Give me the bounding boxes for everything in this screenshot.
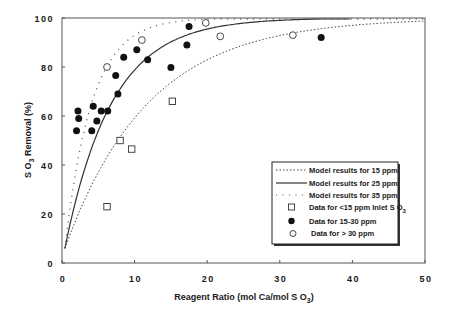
x-axis-title: Reagent Ratio (mol Ca/mol S O3) [174, 292, 313, 304]
data-point-lt15ppm [104, 203, 110, 209]
legend-label-lt15ppm: Data for <15 ppm Inlet S O3 [309, 203, 407, 214]
data-point-15-30ppm [186, 23, 193, 30]
data-point-lt15ppm [169, 98, 175, 104]
legend-label-gt30ppm: Data for > 30 ppm [311, 229, 374, 238]
y-tick-label: 80 [41, 63, 54, 73]
x-tick-label: 0 [60, 274, 67, 284]
y-tick-label: 40 [41, 161, 54, 171]
y-tick-label: 0 [47, 259, 54, 269]
legend-label-25ppm: Model results for 25 ppm [309, 179, 398, 188]
x-tick-label: 40 [347, 274, 360, 284]
x-tick-label: 10 [129, 274, 142, 284]
y-tick-label: 100 [34, 14, 54, 24]
x-tick-label: 20 [202, 274, 215, 284]
data-point-15-30ppm [114, 90, 121, 97]
data-point-15-30ppm [90, 103, 97, 110]
data-point-gt30ppm [202, 20, 209, 27]
legend: Model results for 15 ppm Model results f… [272, 162, 407, 246]
data-point-15-30ppm [88, 127, 95, 134]
data-point-gt30ppm [217, 33, 224, 40]
data-point-15-30ppm [73, 127, 80, 134]
data-point-15-30ppm [74, 108, 81, 115]
x-axis-ticks: 01020304050 [60, 260, 433, 284]
legend-label-15-30ppm: Data for 15-30 ppm [309, 217, 377, 226]
data-point-lt15ppm [117, 137, 123, 143]
chart: 01020304050 020406080100 Reagent Ratio (… [0, 0, 451, 318]
data-point-15-30ppm [318, 34, 325, 41]
y-tick-label: 60 [41, 112, 54, 122]
data-point-gt30ppm [289, 32, 296, 39]
y-axis-title: S O3 Removal (%) [23, 102, 35, 178]
y-tick-label: 20 [41, 210, 54, 220]
data-point-15-30ppm [167, 64, 174, 71]
data-point-15-30ppm [183, 41, 190, 48]
data-point-15-30ppm [133, 46, 140, 53]
x-tick-label: 30 [274, 274, 287, 284]
data-point-15-30ppm [144, 56, 151, 63]
legend-label-35ppm: Model results for 35 ppm [309, 191, 398, 200]
legend-label-15ppm: Model results for 15 ppm [309, 166, 398, 175]
legend-open-square-icon [289, 204, 295, 210]
x-tick-label: 50 [419, 274, 432, 284]
data-point-15-30ppm [93, 117, 100, 124]
y-axis-ticks: 020406080100 [34, 14, 65, 269]
data-point-gt30ppm [138, 37, 145, 44]
data-point-15-30ppm [104, 108, 111, 115]
data-point-15-30ppm [112, 72, 119, 79]
data-point-15-30ppm [98, 108, 105, 115]
data-point-15-30ppm [120, 54, 127, 61]
data-point-gt30ppm [104, 64, 111, 71]
data-point-15-30ppm [75, 115, 82, 122]
data-point-lt15ppm [128, 146, 134, 152]
legend-filled-circle-icon [288, 218, 294, 224]
legend-open-circle-icon [290, 231, 296, 237]
